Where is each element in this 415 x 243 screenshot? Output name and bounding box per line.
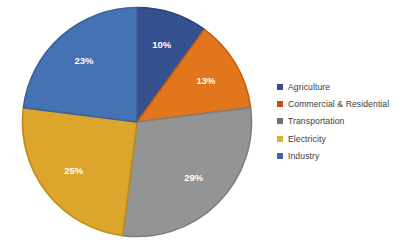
pie-slice-data-label: 23% <box>74 55 94 66</box>
legend-item[interactable]: Commercial & Residential <box>277 95 411 112</box>
legend-swatch-icon <box>277 136 283 142</box>
pie-slice-data-label: 13% <box>196 75 216 86</box>
legend-item[interactable]: Electricity <box>277 130 411 147</box>
legend-item[interactable]: Industry <box>277 148 411 165</box>
legend-item-label: Transportation <box>288 116 345 126</box>
legend-item-label: Electricity <box>288 134 326 144</box>
legend-swatch-icon <box>277 101 283 107</box>
pie-chart-figure: 10%13%29%25%23% AgricultureCommercial & … <box>0 0 415 243</box>
legend-swatch-icon <box>277 153 283 159</box>
legend-item[interactable]: Transportation <box>277 113 411 130</box>
legend-item[interactable]: Agriculture <box>277 78 411 95</box>
legend-item-label: Industry <box>288 151 319 161</box>
legend-item-label: Agriculture <box>288 82 330 92</box>
pie-chart-plot-area: 10%13%29%25%23% <box>20 5 254 239</box>
pie-slice-data-label: 25% <box>64 165 84 176</box>
pie-slice-data-label: 29% <box>184 172 204 183</box>
pie-slice-data-label: 10% <box>152 39 172 50</box>
pie-slice-group <box>22 8 251 237</box>
legend-swatch-icon <box>277 84 283 90</box>
legend-swatch-icon <box>277 118 283 124</box>
chart-legend: AgricultureCommercial & ResidentialTrans… <box>277 78 411 165</box>
pie-chart-svg: 10%13%29%25%23% <box>20 5 254 239</box>
legend-item-label: Commercial & Residential <box>288 99 389 109</box>
